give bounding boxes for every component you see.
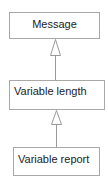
hollow-triangle-icon <box>51 40 61 56</box>
generalization-arrow-length-to-message <box>51 40 61 81</box>
hollow-triangle-icon <box>52 111 62 125</box>
inheritance-arrows <box>0 0 108 185</box>
generalization-arrow-report-to-length <box>52 111 62 148</box>
